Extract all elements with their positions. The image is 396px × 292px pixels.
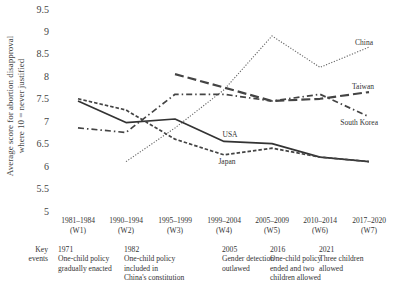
x-axis-ticks: 1981–1984(W1)1990–1994(W2)1995–1999(W3)1… [61, 216, 386, 235]
key-event-year: 2021 [319, 245, 396, 254]
key-event: 1982One-child policyincluded inChina's c… [124, 245, 214, 283]
series-line-south-korea [78, 94, 369, 132]
series-label-south-korea: South Korea [340, 118, 378, 127]
y-axis-label: Average score for abortion disapprovalwh… [5, 35, 26, 176]
x-tick-label: 2005–2009 [255, 216, 289, 225]
y-tick-label: 5.5 [37, 183, 50, 194]
x-tick-label: 1990–1994 [109, 216, 143, 225]
key-event-description-line: China's constitution [124, 273, 214, 282]
y-tick-label: 8.5 [37, 48, 50, 59]
y-tick-label: 7 [44, 116, 49, 127]
x-tick-label: (W4) [216, 226, 232, 235]
x-tick-label: (W7) [361, 226, 377, 235]
y-tick-label: 8 [44, 71, 49, 82]
key-event-description-line: Three children [319, 254, 396, 263]
x-tick-label: 1999–2004 [207, 216, 241, 225]
key-event: 2021Three childrenallowed [319, 245, 396, 273]
x-tick-label: 2017–2020 [352, 216, 386, 225]
x-tick-label: 2010–2014 [303, 216, 337, 225]
key-events-label-line: Key [20, 245, 48, 254]
x-tick-label: (W2) [118, 226, 134, 235]
y-axis-ticks: 55.566.577.588.599.5 [37, 4, 50, 217]
series-line-taiwan [175, 74, 369, 101]
y-tick-label: 6.5 [37, 138, 50, 149]
key-event-year: 1982 [124, 245, 214, 254]
key-event-description-line: included in [124, 264, 214, 273]
y-tick-label: 9 [44, 26, 49, 37]
series-labels: ChinaTaiwanSouth KoreaUSAJapan [218, 38, 378, 166]
x-tick-label: (W3) [167, 226, 183, 235]
series-label-usa: USA [222, 130, 238, 139]
key-events-label: Key events [20, 245, 48, 264]
x-tick-label: (W1) [70, 226, 86, 235]
y-axis-label-line: where 10 = never justified [16, 58, 26, 153]
key-events-label-line: events [20, 254, 48, 263]
x-tick-label: 1995–1999 [158, 216, 192, 225]
y-tick-label: 6 [44, 161, 49, 172]
line-chart: Average score for abortion disapprovalwh… [0, 0, 396, 243]
key-event-description-line: One-child policy [124, 254, 214, 263]
x-tick-label: 1981–1984 [61, 216, 95, 225]
series-lines [78, 36, 369, 162]
key-event-description-line: allowed [319, 264, 396, 273]
key-event-description-line: children allowed [270, 273, 360, 282]
key-events-row: Key events 1971One-child policygradually… [0, 243, 396, 292]
x-tick-label: (W5) [264, 226, 280, 235]
series-label-china: China [355, 38, 374, 47]
y-tick-label: 9.5 [37, 4, 50, 15]
x-tick-label: (W6) [312, 226, 328, 235]
y-tick-label: 7.5 [37, 93, 50, 104]
y-tick-label: 5 [44, 206, 49, 217]
series-label-taiwan: Taiwan [352, 82, 374, 91]
y-axis-label-line: Average score for abortion disapproval [5, 35, 15, 176]
series-label-japan: Japan [218, 157, 235, 166]
